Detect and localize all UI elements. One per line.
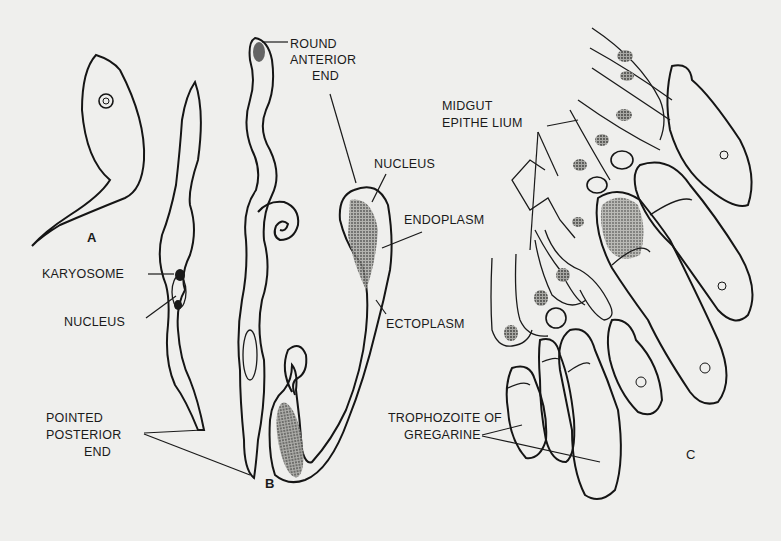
svg-text:NUCLEUS: NUCLEUS xyxy=(64,315,125,329)
svg-text:END: END xyxy=(312,69,339,83)
label-karyosome: KARYOSOME xyxy=(42,267,174,281)
svg-text:MIDGUT: MIDGUT xyxy=(442,99,493,113)
label-endoplasm: ENDOPLASM xyxy=(382,213,484,248)
panel-c-epithelium xyxy=(491,28,753,499)
label-round-anterior-end: ROUND ANTERIOR END xyxy=(262,37,356,183)
svg-text:EPITHE LIUM: EPITHE LIUM xyxy=(442,116,523,130)
svg-text:ANTERIOR: ANTERIOR xyxy=(290,53,356,67)
svg-text:NUCLEUS: NUCLEUS xyxy=(374,157,435,171)
svg-text:ENDOPLASM: ENDOPLASM xyxy=(404,213,484,227)
panel-label-c: C xyxy=(686,447,695,462)
label-trophozoite: TROPHOZOITE OF GREGARINE xyxy=(388,411,600,462)
panel-label-b: B xyxy=(265,476,274,491)
svg-text:ROUND: ROUND xyxy=(290,37,337,51)
slender-cell xyxy=(160,82,204,430)
label-pointed-posterior-end: POINTED POSTERIOR END xyxy=(46,411,250,475)
label-midgut-epithelium: MIDGUT EPITHE LIUM xyxy=(442,99,578,250)
panel-label-a: A xyxy=(87,230,97,245)
panel-a-cell xyxy=(32,55,144,246)
svg-text:TROPHOZOITE OF: TROPHOZOITE OF xyxy=(388,411,502,425)
curved-cell xyxy=(270,187,392,482)
gregarine-diagram: A B xyxy=(0,0,781,541)
svg-text:ECTOPLASM: ECTOPLASM xyxy=(386,317,465,331)
svg-text:POINTED: POINTED xyxy=(46,411,103,425)
svg-text:GREGARINE: GREGARINE xyxy=(404,428,481,442)
label-nucleus-a: NUCLEUS xyxy=(64,296,176,329)
svg-text:POSTERIOR: POSTERIOR xyxy=(46,428,121,442)
svg-text:KARYOSOME: KARYOSOME xyxy=(42,267,124,281)
label-ectoplasm: ECTOPLASM xyxy=(376,300,465,331)
svg-text:END: END xyxy=(84,445,111,459)
